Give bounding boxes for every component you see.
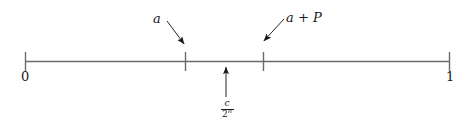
arrow-to-a-plus-p [264, 19, 284, 41]
annotation-label-fraction: c 2n [215, 99, 239, 120]
number-line-figure: 0 1 a a + P c 2n [0, 0, 473, 128]
axis-label-one: 1 [446, 70, 454, 83]
arrow-to-a [167, 21, 184, 44]
annotation-label-a: a [153, 12, 161, 25]
annotation-label-a-plus-p: a + P [286, 11, 322, 24]
fraction-denominator: 2n [215, 110, 239, 119]
axis-label-zero: 0 [21, 70, 29, 83]
fraction-denominator-exponent: n [228, 107, 232, 115]
